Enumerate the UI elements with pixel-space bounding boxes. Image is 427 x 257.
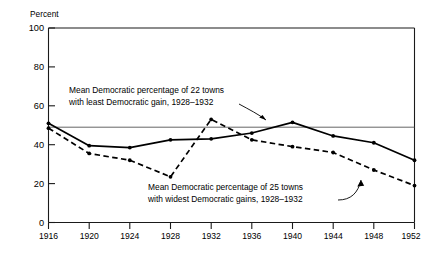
chart-container: Percent 0 20 40 60 80 100	[0, 0, 427, 257]
x-tick-label: 1952	[401, 231, 420, 241]
data-point	[372, 141, 376, 145]
data-point	[47, 126, 51, 130]
data-point	[331, 134, 335, 138]
x-tick-label: 1924	[120, 231, 139, 241]
x-tick-label: 1928	[161, 231, 180, 241]
data-point	[128, 158, 132, 162]
data-point	[87, 152, 91, 156]
x-tick-label: 1944	[324, 231, 343, 241]
x-tick-label: 1948	[364, 231, 383, 241]
anno-least-gain-line2: with least Democratic gain, 1928–1932	[68, 97, 214, 107]
data-point	[413, 158, 417, 162]
y-tick-label: 100	[29, 23, 44, 33]
x-tick-label: 1920	[80, 231, 99, 241]
data-point	[372, 168, 376, 172]
y-tick-label: 0	[39, 218, 44, 228]
data-point	[291, 120, 295, 124]
x-tick-label: 1940	[283, 231, 302, 241]
x-tick-label: 1932	[202, 231, 221, 241]
data-point	[209, 118, 213, 122]
data-point	[209, 137, 213, 141]
data-point	[250, 138, 254, 142]
y-tick-label: 60	[34, 101, 44, 111]
y-axis-label: Percent	[30, 9, 59, 19]
y-tick-label: 20	[34, 179, 44, 189]
data-point	[413, 184, 417, 188]
data-point	[128, 146, 132, 150]
anno-widest-gains-line1: Mean Democratic percentage of 25 towns	[148, 182, 303, 192]
anno-least-gain-line1: Mean Democratic percentage of 22 towns	[69, 85, 224, 95]
anno-widest-gains-line2: with widest Democratic gains, 1928–1932	[147, 194, 303, 204]
line-chart: Percent 0 20 40 60 80 100	[0, 0, 427, 257]
data-point	[291, 145, 295, 149]
x-tick-label: 1916	[39, 231, 58, 241]
x-tick-label: 1936	[242, 231, 261, 241]
data-point	[250, 131, 254, 135]
y-tick-label: 40	[34, 140, 44, 150]
data-point	[47, 121, 51, 125]
data-point	[87, 144, 91, 148]
data-point	[331, 151, 335, 155]
y-tick-label: 80	[34, 62, 44, 72]
chart-background	[0, 0, 427, 257]
data-point	[169, 138, 173, 142]
data-point	[169, 175, 173, 179]
